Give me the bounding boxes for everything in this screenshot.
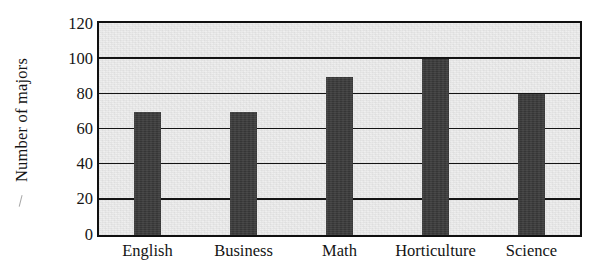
y-tick-label-100: 100 xyxy=(47,51,93,68)
plot-frame xyxy=(97,21,582,237)
bar-math xyxy=(326,77,353,235)
bar-chart-figure: Number of majors 120 100 80 60 40 20 0 E… xyxy=(0,0,612,276)
y-tick-label-40: 40 xyxy=(47,156,93,173)
gridline-100 xyxy=(99,57,580,59)
plot-area xyxy=(99,23,580,235)
x-tick-label-math: Math xyxy=(322,243,357,260)
x-axis-tick-labels: EnglishBusinessMathHorticultureScience xyxy=(97,243,582,269)
y-axis-title-text: Number of majors xyxy=(12,58,32,182)
y-tick-label-80: 80 xyxy=(47,86,93,103)
x-tick-label-horticulture: Horticulture xyxy=(395,243,476,260)
x-tick-label-english: English xyxy=(122,243,172,260)
y-tick-label-60: 60 xyxy=(47,121,93,138)
bar-english xyxy=(134,112,161,235)
x-tick-label-science: Science xyxy=(506,243,557,260)
bar-horticulture xyxy=(422,59,449,235)
bar-business xyxy=(230,112,257,235)
bar-science xyxy=(518,94,545,235)
y-tick-label-0: 0 xyxy=(47,227,93,244)
y-tick-label-120: 120 xyxy=(47,16,93,33)
y-tick-label-20: 20 xyxy=(47,191,93,208)
x-tick-label-business: Business xyxy=(214,243,273,260)
y-axis-tick-labels: 120 100 80 60 40 20 0 xyxy=(44,0,93,276)
